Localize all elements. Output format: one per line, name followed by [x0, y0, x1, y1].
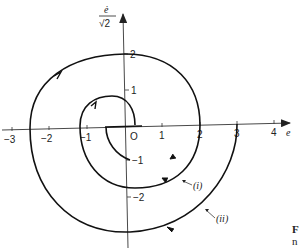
x-axis-label: e: [286, 127, 291, 138]
x-axis: [2, 123, 290, 130]
x-tick-label: 4: [271, 127, 277, 138]
y-axis-label-denominator: √2: [99, 18, 110, 29]
x-tick-label: 1: [159, 130, 165, 141]
curve-label-i-group: (i): [182, 180, 203, 192]
y-axis-label-numerator: ė: [104, 4, 109, 15]
caption-line-2: n: [292, 235, 298, 247]
x-tick-label: −3: [4, 134, 16, 145]
origin-label: O: [130, 131, 138, 142]
phase-plane-figure: −3 −2 −1 1 2 3 4 e O 2 1 −1 −2 ė √2: [0, 0, 302, 249]
curve-label-ii-group: (ii): [205, 209, 229, 225]
y-tick-label: −2: [133, 192, 145, 203]
caption-line-1: F: [292, 223, 299, 235]
y-axis-label: ė √2: [99, 4, 116, 29]
caption-fragment: F n: [292, 223, 299, 247]
curve-label-i: (i): [193, 180, 203, 192]
curve-label-ii: (ii): [216, 213, 229, 225]
y-tick-label: 1: [131, 85, 137, 96]
trajectory-ii: [30, 54, 237, 232]
y-axis: [123, 14, 128, 248]
trajectory-i: [80, 96, 200, 188]
x-tick-label: −2: [41, 133, 53, 144]
x-tick-labels: −3 −2 −1 1 2 3 4 e O: [4, 127, 291, 145]
y-tick-label: −1: [132, 155, 144, 166]
